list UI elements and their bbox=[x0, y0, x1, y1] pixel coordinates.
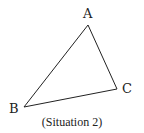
vertex-label-b: B bbox=[9, 102, 19, 115]
figure-caption: (Situation 2) bbox=[0, 115, 144, 130]
triangle-drawing bbox=[0, 0, 144, 133]
vertex-label-c: C bbox=[122, 82, 132, 95]
triangle-figure: A C B (Situation 2) bbox=[0, 0, 144, 133]
triangle-abc bbox=[24, 25, 117, 107]
vertex-label-a: A bbox=[83, 7, 92, 20]
